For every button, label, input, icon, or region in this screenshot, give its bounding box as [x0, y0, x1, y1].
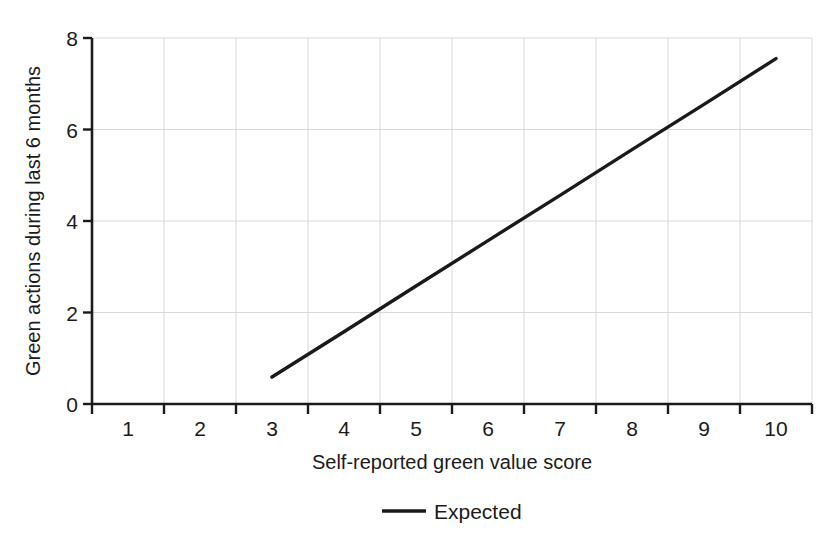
x-tick-label-6: 6 [482, 417, 494, 440]
x-tick-label-8: 8 [626, 417, 638, 440]
x-tick-label-1: 1 [122, 417, 134, 440]
x-axis-title: Self-reported green value score [312, 451, 592, 473]
x-tick-label-2: 2 [194, 417, 206, 440]
x-tick-label-10: 10 [764, 417, 787, 440]
y-tick-label-8: 8 [66, 27, 78, 50]
y-axis-ticks [83, 38, 92, 404]
y-axis-tick-labels: 8 6 4 2 0 [66, 27, 78, 416]
x-axis-tick-labels: 1 2 3 4 5 6 7 8 9 10 [122, 417, 788, 440]
legend: Expected [382, 500, 522, 523]
x-tick-label-5: 5 [410, 417, 422, 440]
x-tick-label-9: 9 [698, 417, 710, 440]
x-tick-label-7: 7 [554, 417, 566, 440]
x-tick-label-3: 3 [266, 417, 278, 440]
y-tick-label-2: 2 [66, 302, 78, 325]
chart-figure: 8 6 4 2 0 1 2 3 4 5 6 7 8 9 10 Self-repo… [0, 0, 840, 558]
chart-canvas: 8 6 4 2 0 1 2 3 4 5 6 7 8 9 10 Self-repo… [0, 0, 840, 558]
y-tick-label-4: 4 [66, 210, 78, 233]
y-tick-label-6: 6 [66, 119, 78, 142]
legend-label-expected: Expected [434, 500, 522, 523]
y-tick-label-0: 0 [66, 393, 78, 416]
x-axis-ticks [92, 404, 812, 414]
y-axis-title: Green actions during last 6 months [22, 66, 44, 376]
x-tick-label-4: 4 [338, 417, 350, 440]
